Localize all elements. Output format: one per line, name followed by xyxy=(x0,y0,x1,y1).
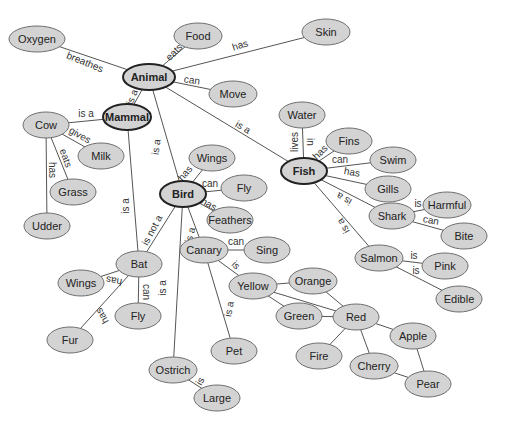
node-ostrich[interactable]: Ostrich xyxy=(149,357,197,383)
edge-label: is a xyxy=(157,280,168,296)
node-grass[interactable]: Grass xyxy=(50,179,96,205)
node-pet[interactable]: Pet xyxy=(211,338,257,364)
node-label: Gills xyxy=(377,183,399,195)
edge-label: breathes xyxy=(65,50,105,75)
node-wings2[interactable]: Wings xyxy=(58,270,104,296)
edge-label: is xyxy=(412,265,419,276)
node-label: Apple xyxy=(399,330,427,342)
edge-label: lives xyxy=(289,132,300,152)
node-red[interactable]: Red xyxy=(333,304,379,330)
node-skin[interactable]: Skin xyxy=(302,19,350,45)
edge-label: gives xyxy=(67,124,93,145)
node-bird[interactable]: Bird xyxy=(160,181,206,207)
edge-label: is a xyxy=(334,190,353,208)
node-label: Bite xyxy=(455,230,474,242)
node-pear[interactable]: Pear xyxy=(405,371,451,397)
edge-label: in xyxy=(305,138,316,146)
node-label: Grass xyxy=(58,186,88,198)
node-label: Animal xyxy=(131,71,168,83)
node-label: Canary xyxy=(186,244,222,256)
node-shark[interactable]: Shark xyxy=(369,203,415,229)
edge-label: is xyxy=(414,198,421,209)
node-oxygen[interactable]: Oxygen xyxy=(9,26,65,52)
node-green[interactable]: Green xyxy=(276,303,322,329)
node-orange[interactable]: Orange xyxy=(289,268,337,294)
node-label: Cow xyxy=(35,119,57,131)
edge-label: is xyxy=(410,250,417,261)
node-label: Pear xyxy=(416,378,440,390)
node-label: Shark xyxy=(378,210,407,222)
node-label: Food xyxy=(185,30,210,42)
edge-label: is xyxy=(193,375,206,387)
node-label: Fur xyxy=(62,334,79,346)
node-feathers[interactable]: Feathers xyxy=(207,207,253,233)
node-wings1[interactable]: Wings xyxy=(189,145,235,171)
node-label: Edible xyxy=(444,293,475,305)
node-milk[interactable]: Milk xyxy=(78,143,124,169)
node-label: Fish xyxy=(293,165,316,177)
node-cherry[interactable]: Cherry xyxy=(350,353,398,379)
node-pink[interactable]: Pink xyxy=(422,253,468,279)
edge-label: is a xyxy=(78,108,94,119)
node-label: Green xyxy=(284,310,315,322)
node-fly2[interactable]: Fly xyxy=(115,303,161,329)
edge-label: has xyxy=(47,162,58,178)
edge-label: can xyxy=(141,284,152,300)
node-label: Fly xyxy=(237,182,252,194)
edge-label: is a xyxy=(120,198,131,214)
node-mammal[interactable]: Mammal xyxy=(103,104,151,130)
node-large[interactable]: Large xyxy=(194,385,240,411)
node-move[interactable]: Move xyxy=(209,81,257,107)
node-food[interactable]: Food xyxy=(174,23,222,49)
node-label: Feathers xyxy=(208,214,252,226)
node-label: Fly xyxy=(131,310,146,322)
concept-map: breatheseatshascanis ais ais ais agivese… xyxy=(0,0,511,426)
node-fly1[interactable]: Fly xyxy=(221,175,267,201)
node-apple[interactable]: Apple xyxy=(390,323,436,349)
node-label: Large xyxy=(203,392,231,404)
node-label: Ostrich xyxy=(156,364,191,376)
edge-label: is a xyxy=(334,216,352,235)
node-label: Oxygen xyxy=(18,33,56,45)
edge-label: can xyxy=(202,178,218,189)
node-yellow[interactable]: Yellow xyxy=(229,273,277,299)
edge-label: is a xyxy=(222,300,236,318)
node-label: Orange xyxy=(295,275,332,287)
node-label: Yellow xyxy=(237,280,268,292)
node-label: Cherry xyxy=(357,360,391,372)
node-edible[interactable]: Edible xyxy=(436,286,482,312)
node-bite[interactable]: Bite xyxy=(441,223,487,249)
node-label: Udder xyxy=(32,220,62,232)
node-udder[interactable]: Udder xyxy=(24,213,70,239)
node-salmon[interactable]: Salmon xyxy=(355,245,403,271)
node-fire[interactable]: Fire xyxy=(296,343,342,369)
node-harmful[interactable]: Harmful xyxy=(423,192,471,218)
node-cow[interactable]: Cow xyxy=(23,112,69,138)
node-label: Wings xyxy=(66,277,97,289)
node-label: Fire xyxy=(310,350,329,362)
edge-label: can xyxy=(332,154,348,165)
node-label: Mammal xyxy=(105,111,149,123)
node-water[interactable]: Water xyxy=(279,102,325,128)
node-sing[interactable]: Sing xyxy=(244,237,290,263)
node-bat[interactable]: Bat xyxy=(116,251,162,277)
node-swim[interactable]: Swim xyxy=(370,147,416,173)
edge-label: has xyxy=(343,165,361,179)
node-label: Salmon xyxy=(360,252,397,264)
edge-label: is a xyxy=(234,118,253,136)
node-label: Swim xyxy=(380,154,407,166)
node-canary[interactable]: Canary xyxy=(180,237,228,263)
node-label: Skin xyxy=(315,26,336,38)
nodes-layer: OxygenFoodSkinAnimalMoveMammalCowMilkGra… xyxy=(9,19,487,411)
node-animal[interactable]: Animal xyxy=(123,64,175,90)
node-label: Water xyxy=(288,109,317,121)
node-fur[interactable]: Fur xyxy=(47,327,93,353)
node-fins[interactable]: Fins xyxy=(326,128,372,154)
node-gills[interactable]: Gills xyxy=(365,176,411,202)
edge-bird-ostrich xyxy=(173,194,183,370)
node-label: Bat xyxy=(131,258,148,270)
node-label: Red xyxy=(346,311,366,323)
node-fish[interactable]: Fish xyxy=(281,158,327,184)
node-label: Wings xyxy=(197,152,228,164)
node-label: Pink xyxy=(434,260,456,272)
